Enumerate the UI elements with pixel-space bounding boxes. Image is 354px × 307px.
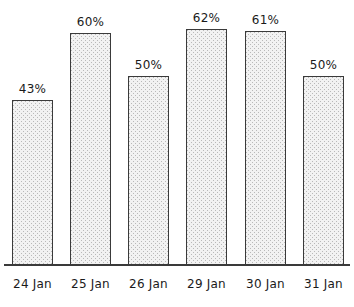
bar-rect[interactable]	[70, 33, 111, 266]
bar-rect[interactable]	[128, 76, 169, 266]
bar-value-label: 50%	[135, 58, 162, 72]
x-axis-tick-label: 25 Jan	[70, 276, 111, 292]
x-axis-line	[4, 264, 350, 266]
bar-value-label: 60%	[77, 15, 104, 29]
x-axis-labels: 24 Jan 25 Jan 26 Jan 29 Jan 30 Jan 31 Ja…	[0, 276, 354, 296]
bar-value-label: 43%	[19, 82, 46, 96]
bar-rect[interactable]	[186, 29, 227, 266]
bar-rect[interactable]	[12, 100, 53, 266]
x-axis-tick-label: 31 Jan	[303, 276, 344, 292]
x-axis-tick-label: 29 Jan	[186, 276, 227, 292]
plot-area: 43% 60% 50% 62% 61% 50%	[0, 0, 354, 266]
x-axis-tick-label: 24 Jan	[12, 276, 53, 292]
bar-rect[interactable]	[303, 76, 344, 266]
x-axis-tick-label: 26 Jan	[128, 276, 169, 292]
bar-chart: 43% 60% 50% 62% 61% 50% 24 Jan 25 Jan 26…	[0, 0, 354, 307]
bar-rect[interactable]	[245, 31, 286, 266]
bar-value-label: 61%	[252, 13, 279, 27]
bar-value-label: 50%	[310, 58, 337, 72]
bar-value-label: 62%	[193, 11, 220, 25]
x-axis-tick-label: 30 Jan	[245, 276, 286, 292]
